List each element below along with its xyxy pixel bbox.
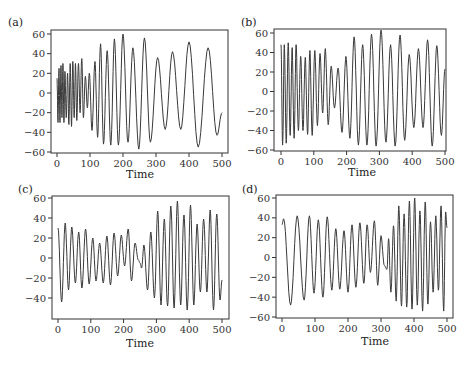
x-tick-label: 200 (338, 323, 357, 334)
panel-label: (a) (8, 16, 23, 29)
x-axis: 0100200300400500 (279, 318, 457, 334)
x-tick-label: 0 (54, 158, 60, 169)
y-tick-label: 60 (33, 193, 46, 204)
x-tick-label: 400 (404, 323, 423, 334)
signal-line (58, 201, 222, 310)
plot-frame (52, 196, 229, 319)
y-tick-label: 20 (33, 233, 46, 244)
y-tick-label: −60 (249, 312, 270, 323)
x-tick-label: 100 (305, 323, 324, 334)
panel-c: (c) 6040200−20−40 0100200300400500 Time (18, 183, 232, 350)
y-axis: 6040200−20−40−60 (24, 29, 51, 158)
x-tick-label: 300 (147, 324, 166, 335)
x-tick-label: 400 (180, 324, 199, 335)
panel-d: (d) 6040200−20−40−60 0100200300400500 Ti… (242, 183, 457, 348)
panel-b: (b) 6040200−20−40−60 0100200300400500 Ti… (241, 16, 455, 179)
x-tick-label: 0 (55, 324, 61, 335)
x-tick-label: 100 (304, 156, 323, 167)
y-tick-label: −20 (249, 272, 270, 283)
y-tick-label: −20 (25, 273, 46, 284)
x-tick-label: 500 (437, 323, 456, 334)
y-tick-label: −40 (249, 292, 270, 303)
y-axis: 6040200−20−40−60 (249, 193, 276, 323)
y-tick-label: −40 (25, 293, 46, 304)
y-axis: 6040200−20−40 (25, 193, 52, 304)
x-tick-label: 100 (80, 158, 99, 169)
x-tick-label: 400 (179, 158, 198, 169)
x-tick-label: 500 (212, 324, 231, 335)
x-axis: 0100200300400500 (54, 153, 232, 169)
panel-label: (c) (18, 183, 33, 196)
x-axis-label: Time (348, 166, 376, 179)
y-tick-label: 60 (32, 29, 45, 40)
x-tick-label: 200 (114, 324, 133, 335)
x-tick-label: 500 (212, 158, 231, 169)
y-tick-label: 40 (33, 213, 46, 224)
panel-a: (a) 6040200−20−40−60 0100200300400500 Ti… (8, 16, 232, 181)
panel-label: (d) (242, 183, 258, 196)
y-tick-label: 0 (264, 252, 270, 263)
y-tick-label: 0 (40, 253, 46, 264)
y-tick-label: 60 (257, 193, 270, 204)
y-tick-label: 20 (257, 232, 270, 243)
y-tick-label: 40 (255, 47, 268, 58)
x-tick-label: 400 (403, 156, 422, 167)
y-tick-label: 20 (32, 68, 45, 79)
y-axis: 6040200−20−40−60 (247, 28, 274, 156)
y-tick-label: 60 (255, 28, 268, 39)
x-axis: 0100200300400500 (55, 319, 232, 335)
y-tick-label: −60 (24, 147, 45, 158)
y-tick-label: −60 (247, 145, 268, 156)
signal-line (281, 30, 445, 146)
y-tick-label: −40 (24, 127, 45, 138)
signal-line (57, 34, 222, 149)
y-tick-label: −20 (247, 106, 268, 117)
figure: (a) 6040200−20−40−60 0100200300400500 Ti… (0, 0, 469, 365)
y-tick-label: 40 (32, 48, 45, 59)
x-tick-label: 500 (435, 156, 454, 167)
y-tick-label: −40 (247, 125, 268, 136)
x-tick-label: 0 (278, 156, 284, 167)
x-tick-label: 100 (81, 324, 100, 335)
x-axis: 0100200300400500 (278, 151, 455, 167)
x-axis-label: Time (361, 335, 389, 348)
x-tick-label: 0 (279, 323, 285, 334)
x-tick-label: 300 (371, 323, 390, 334)
x-axis-label: Time (126, 168, 154, 181)
y-tick-label: 20 (255, 67, 268, 78)
signal-line (282, 198, 447, 311)
y-tick-label: 0 (262, 86, 268, 97)
y-tick-label: −20 (24, 107, 45, 118)
y-tick-label: 40 (257, 212, 270, 223)
y-tick-label: 0 (39, 88, 45, 99)
x-axis-label: Time (126, 337, 154, 350)
